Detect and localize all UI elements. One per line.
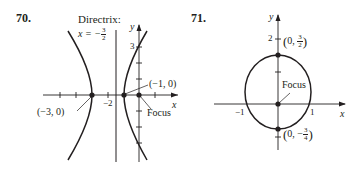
- directrix-label: Directrix:: [78, 14, 121, 25]
- x-tick-neg2-label: −2: [103, 99, 113, 108]
- point-label-neg1-0: (−1, 0): [149, 79, 176, 89]
- point-bottom-71: [275, 126, 280, 131]
- focus-point-71: [275, 101, 280, 106]
- focus-label-70: Focus: [147, 108, 171, 118]
- directrix-equation: x = −32: [78, 27, 106, 42]
- x-axis-arrow-70: [171, 93, 178, 98]
- x-tick-1-label: 1: [310, 108, 315, 117]
- focus-point-70: [136, 92, 141, 97]
- graph-71: [214, 14, 346, 150]
- point-label-bottom-71: (0, −34): [283, 127, 313, 142]
- parabola-right: [124, 31, 147, 160]
- focus-label-71: Focus: [282, 80, 306, 90]
- graph-70: [43, 24, 178, 162]
- y-axis-arrow-71: [276, 14, 281, 21]
- x-axis-label-71: x: [340, 109, 344, 119]
- point-top-71: [275, 52, 280, 57]
- problem-number-71: 71.: [191, 12, 206, 24]
- directrix-fraction: 32: [101, 27, 107, 42]
- point-neg1-0: [121, 92, 126, 97]
- point-label-top-71: (0, 32): [283, 34, 307, 49]
- x-tick-neg1-label: −1: [235, 108, 245, 117]
- y-axis-label-70: y: [130, 22, 134, 32]
- directrix-eq-lhs: x = −: [78, 28, 101, 39]
- problem-number-70: 70.: [16, 12, 31, 24]
- y-tick-2-label: 2: [268, 34, 273, 43]
- point-neg3-0: [89, 92, 94, 97]
- leader-neg1: [125, 85, 148, 94]
- x-axis-label-70: x: [172, 100, 176, 110]
- parabola-left: [68, 31, 92, 160]
- y-axis-arrow-70: [137, 24, 142, 31]
- leader-focus-71: [279, 93, 290, 103]
- y-axis-label-71: y: [269, 12, 273, 22]
- point-label-neg3-0: (−3, 0): [37, 107, 64, 117]
- x-axis-arrow-71: [339, 102, 346, 107]
- y-tick-3-label: 3: [130, 42, 135, 51]
